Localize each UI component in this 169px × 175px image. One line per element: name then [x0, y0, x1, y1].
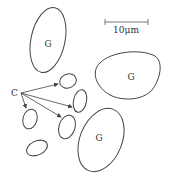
- cell-c: [71, 88, 88, 113]
- cell-g-label: G: [44, 39, 51, 49]
- scale-bar-label: 10μm: [113, 25, 139, 35]
- cell-c-label: C: [11, 88, 18, 98]
- cell-c: [21, 108, 40, 131]
- cell-c: [56, 113, 79, 141]
- arrow-icon: [21, 93, 72, 107]
- scale-bar: 10μm: [105, 19, 148, 35]
- arrow-icon: [21, 93, 61, 117]
- cell-g-label: G: [95, 133, 102, 143]
- cell-g-label: G: [127, 72, 134, 82]
- diagram-canvas: 10μm G G G C: [0, 0, 169, 175]
- c-arrows: [21, 84, 72, 117]
- cell-g-right: G: [95, 52, 160, 99]
- cell-c: [58, 72, 79, 91]
- arrow-icon: [21, 84, 58, 93]
- cell-c: [24, 137, 50, 159]
- cell-g-top-left: G: [25, 4, 72, 76]
- cell-diagram: 10μm G G G C: [0, 0, 169, 175]
